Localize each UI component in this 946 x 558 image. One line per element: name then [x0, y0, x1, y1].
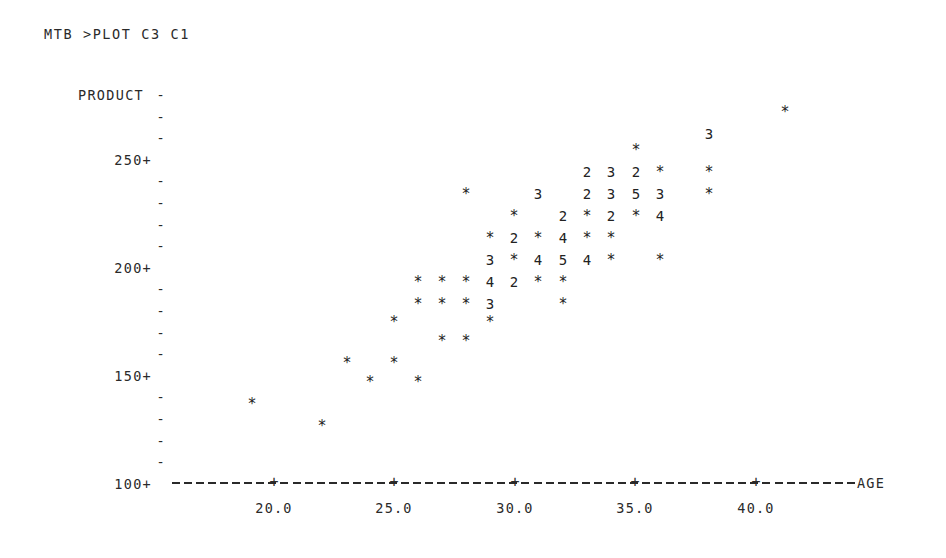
data-point-cluster: 5 [556, 249, 570, 271]
x-axis-dash [787, 482, 795, 484]
data-point-single: * [507, 205, 521, 227]
y-tick-value: 150+ [114, 365, 152, 387]
y-tick-value: 250+ [114, 149, 152, 171]
x-axis-dash [738, 482, 746, 484]
x-axis-dash [546, 482, 554, 484]
x-axis-dash [473, 482, 481, 484]
data-point-single: * [629, 205, 643, 227]
x-axis-dash [570, 482, 578, 484]
data-point-single: * [483, 227, 497, 249]
data-point-single: * [245, 393, 259, 415]
x-axis-dash [678, 482, 686, 484]
y-axis-minor-tick: - [0, 106, 166, 128]
x-axis-dash [196, 482, 204, 484]
x-axis-dash [582, 482, 590, 484]
data-point-single: * [702, 161, 716, 183]
x-tick-label: 40.0 [721, 500, 791, 516]
data-point-cluster: 4 [556, 227, 570, 249]
x-tick-label: 30.0 [480, 500, 550, 516]
x-axis-dash [666, 482, 674, 484]
x-axis-dash [425, 482, 433, 484]
data-point-cluster: 4 [580, 249, 594, 271]
y-axis-minor-tick: - [0, 322, 166, 344]
x-axis-dash [762, 482, 770, 484]
y-tick-dash: - [157, 214, 166, 236]
data-point-single: * [580, 205, 594, 227]
y-axis-tick-label: 150+ [0, 365, 166, 387]
y-tick-value: 100+ [114, 473, 152, 495]
x-axis-dash [497, 482, 505, 484]
data-point-cluster: 2 [580, 183, 594, 205]
x-axis-dash [232, 482, 240, 484]
data-point-cluster: 4 [653, 205, 667, 227]
x-axis-dash [329, 482, 337, 484]
x-axis-dash [714, 482, 722, 484]
x-axis-dash [534, 482, 542, 484]
y-axis-minor-tick: PRODUCT- [0, 84, 166, 106]
data-point-cluster: 2 [580, 161, 594, 183]
data-point-cluster: 3 [604, 183, 618, 205]
data-point-cluster: 2 [507, 227, 521, 249]
x-axis-dash [244, 482, 252, 484]
data-point-cluster: 2 [556, 205, 570, 227]
y-tick-dash: - [157, 430, 166, 452]
x-axis-dash [690, 482, 698, 484]
data-point-single: * [363, 371, 377, 393]
data-point-cluster: 2 [507, 271, 521, 293]
x-axis-tick-mark: + [629, 474, 641, 490]
x-axis-dash [305, 482, 313, 484]
data-point-cluster: 3 [531, 183, 545, 205]
data-point-single: * [411, 271, 425, 293]
x-axis-dash [172, 482, 180, 484]
data-point-single: * [556, 293, 570, 315]
x-axis-dash [449, 482, 457, 484]
x-axis-tick-mark: + [388, 474, 400, 490]
data-point-single: * [459, 293, 473, 315]
data-point-single: * [702, 183, 716, 205]
x-axis-dash [365, 482, 373, 484]
y-tick-dash: - [157, 235, 166, 257]
x-tick-label: 25.0 [359, 500, 429, 516]
x-axis-tick-mark: + [509, 474, 521, 490]
data-point-single: * [531, 271, 545, 293]
data-point-cluster: 2 [629, 161, 643, 183]
x-axis-dash [618, 482, 626, 484]
minitab-character-plot: MTB >PLOT C3 C1 PRODUCT---250+----200+--… [0, 0, 946, 558]
y-axis-tick-label: 250+ [0, 149, 166, 171]
data-point-single: * [653, 249, 667, 271]
x-axis-dash [823, 482, 831, 484]
data-point-cluster: 3 [483, 249, 497, 271]
y-tick-dash: - [157, 84, 166, 106]
y-tick-dash: - [157, 300, 166, 322]
x-axis-dash [353, 482, 361, 484]
y-tick-dash: - [157, 386, 166, 408]
x-axis-dash [642, 482, 650, 484]
y-tick-dash: - [157, 192, 166, 214]
data-point-single: * [531, 227, 545, 249]
x-axis-dash [811, 482, 819, 484]
data-point-single: * [315, 415, 329, 437]
y-tick-dash: - [157, 106, 166, 128]
y-axis-minor-tick: - [0, 386, 166, 408]
x-axis-dash [280, 482, 288, 484]
y-tick-value: 200+ [114, 257, 152, 279]
x-axis-dash [726, 482, 734, 484]
y-axis-title: PRODUCT [78, 84, 144, 106]
y-tick-dash: - [157, 127, 166, 149]
x-axis-dash [437, 482, 445, 484]
x-axis-tick-mark: + [750, 474, 762, 490]
y-axis-minor-tick: - [0, 235, 166, 257]
y-axis-minor-tick: - [0, 170, 166, 192]
y-tick-dash: - [157, 451, 166, 473]
data-point-cluster: 2 [604, 205, 618, 227]
data-point-single: * [459, 330, 473, 352]
x-axis-dash [835, 482, 843, 484]
x-axis-dash [377, 482, 385, 484]
data-point-cluster: 5 [629, 183, 643, 205]
y-tick-dash: - [157, 170, 166, 192]
x-axis-dash [654, 482, 662, 484]
x-axis-dash [184, 482, 192, 484]
data-point-single: * [459, 183, 473, 205]
x-axis-label: AGE [857, 476, 885, 490]
data-point-single: * [435, 330, 449, 352]
